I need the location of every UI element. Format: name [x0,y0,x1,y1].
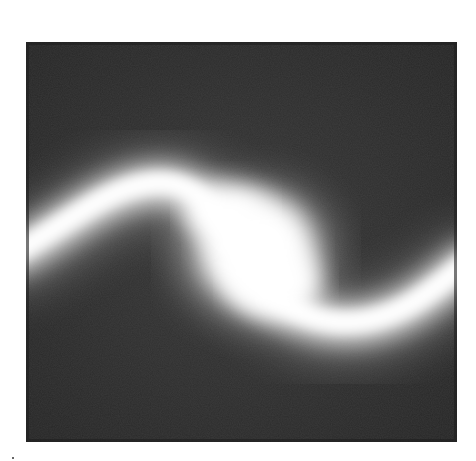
intensity-map-panel [26,42,457,442]
scan-artifact-dot [12,457,14,459]
s-curve-glow-image [26,42,457,442]
